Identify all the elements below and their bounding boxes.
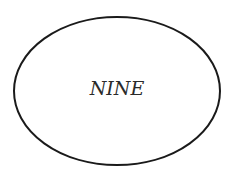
diagram-canvas: NINE [0, 0, 237, 180]
node-label: NINE [89, 77, 145, 99]
